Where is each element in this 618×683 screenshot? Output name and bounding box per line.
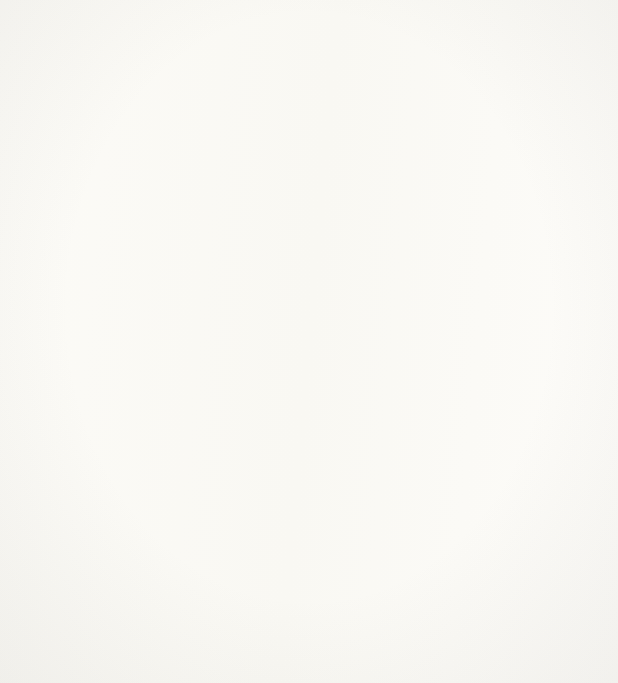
rabbit-hind-print [547,52,610,72]
turtle-foot-print [452,464,465,476]
dog-heel-pad [232,369,257,400]
rabbit-hind-print [82,22,145,42]
legend-item-raccoon: Raccoon [334,565,400,590]
rabbit-track-group [22,14,162,84]
cat-toe [197,183,205,189]
deer-hoof-half [78,131,127,148]
cat-toe [506,200,514,206]
rabbit-hind-print [323,22,386,42]
frog-web [556,589,574,598]
cat-claw-mark [209,184,212,187]
turtle-foot-print [302,464,315,476]
cat-toe [69,208,77,214]
dog-heel-pad [64,353,89,384]
deer-hoof-half [364,131,413,148]
deer-hoof-half [231,112,280,129]
cat-track-group [292,182,336,220]
track-row-cat [0,182,618,232]
cat-toe [417,183,425,189]
seagull-webbed-print [46,490,80,516]
deer-dewclaw [346,118,355,130]
legend-item-snake: Snake [334,540,400,565]
frog-toe [110,628,129,652]
dog-claw-mark [111,358,118,363]
raccoon-finger [146,238,153,256]
rabbit-front-print [265,24,282,41]
legend-item-deer: Deer [212,640,334,665]
dog-claw-mark [107,347,114,352]
track-row-turtle [0,408,618,478]
frog-front-print [554,580,580,602]
cat-toe [199,200,207,206]
frog-web [488,578,522,592]
dog-toe [387,344,402,355]
dog-claw-mark [275,363,282,368]
cat-claw-mark [84,201,87,204]
dog-heel-pad [362,353,387,384]
cat-claw-mark [324,192,327,195]
frog-web [132,589,150,598]
seagull-webbed-print [150,480,184,506]
dog-heel-pad [515,375,540,406]
deer-track-group [213,109,296,164]
rabbit-front-print [22,24,39,41]
deer-dewclaw [60,118,69,130]
dog-toe [257,394,272,405]
cat-toe [69,183,77,189]
legend-item-rabbit: Rabbit [212,615,334,640]
deer-track-group [60,109,143,164]
cat-claw-mark [81,209,84,212]
dog-claw-mark [562,393,569,398]
turtle-foot-print [480,464,493,476]
legend-item-fox: Fox [212,590,334,615]
cat-heel-pad [52,188,68,207]
cat-toe [419,191,427,197]
cat-claw-mark [429,209,432,212]
dog-claw-mark [409,371,416,376]
frog-web [64,578,98,592]
cat-toe [71,191,79,197]
cat-toe [309,208,317,214]
dog-claw-mark [107,381,114,386]
cat-toe [506,191,514,197]
raccoon-hind-print [38,236,108,280]
dog-toe [540,366,555,377]
raccoon-finger [292,261,304,278]
dog-toe [544,377,559,388]
turtle-foot-print [405,428,418,440]
cat-claw-mark [321,209,324,212]
cat-track-group [400,182,444,220]
dog-track-group [232,360,294,410]
legend-column-left: Dog Cat Fox Rabbit Deer [212,540,334,665]
raccoon-hind-print [450,252,520,296]
cat-claw-mark [429,184,432,187]
raccoon-front-print [250,254,300,286]
cat-claw-mark [519,192,522,195]
legend-item-frog: Frog [334,615,400,640]
seagull-webbed-print [424,506,458,532]
dog-track-group [362,344,424,394]
deer-hoof-half [75,112,124,129]
cat-toe [504,183,512,189]
cat-heel-pad [180,188,196,207]
deer-hoof-half [493,131,542,148]
frog-hind-webbed-foot [64,610,126,642]
frog-web [560,621,578,630]
cat-claw-mark [516,209,519,212]
dog-toe [93,355,108,366]
dog-claw-mark [279,374,286,379]
frog-track-group [458,558,588,658]
legend-item-seagull: Sea gull [334,640,400,665]
track-row-dog [0,344,618,414]
cat-toe [311,200,319,206]
raccoon-front-print [528,254,578,286]
dog-claw-mark [405,381,412,386]
legend: Dog Cat Fox Rabbit Deer Snake Raccoon Tu… [212,540,400,665]
deer-dewclaw [216,113,224,124]
raccoon-finger [280,254,287,272]
rabbit-track-group [487,14,618,84]
deer-hoof-half [361,112,410,129]
turtle-foot-print [552,428,565,440]
raccoon-front-print [116,238,166,270]
deer-dewclaw [479,113,487,124]
